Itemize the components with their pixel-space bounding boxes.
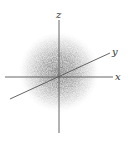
x-axis-label: x — [115, 71, 121, 82]
y-axis-label: y — [111, 46, 118, 57]
z-axis-label: z — [55, 9, 62, 20]
orbital-diagram: z x y — [0, 0, 131, 141]
